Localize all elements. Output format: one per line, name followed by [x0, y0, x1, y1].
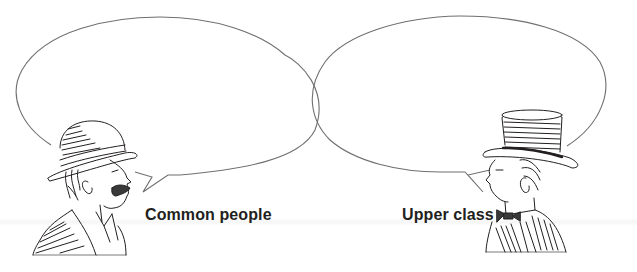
illustration-stage: Common people Upper class	[0, 0, 637, 272]
label-common-people: Common people	[145, 206, 272, 224]
speech-bubble-right	[312, 16, 606, 192]
label-upper-class: Upper class	[402, 206, 494, 224]
speech-scene	[0, 0, 637, 272]
man-bowler-hat-mustache-icon	[33, 121, 137, 255]
man-top-hat-bowtie-icon	[483, 110, 578, 252]
